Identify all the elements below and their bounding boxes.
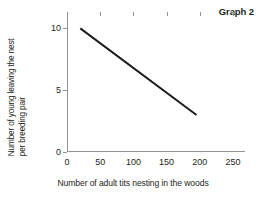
x-axis-tick-label: 0 <box>64 157 69 167</box>
chart-figure: Graph 2 Number of young leaving the nest… <box>0 0 266 203</box>
y-axis-tick-label: 5 <box>56 85 61 95</box>
y-axis-tick-label: 0 <box>56 147 61 157</box>
x-axis-tick-label: 100 <box>126 157 141 167</box>
data-line <box>80 28 196 115</box>
y-axis-title: Number of young leaving the nest per bre… <box>0 0 50 160</box>
y-axis-title-line-2: per breeding pair <box>19 97 27 156</box>
x-axis-title: Number of adult tits nesting in the wood… <box>0 178 266 188</box>
plot-area: 0510 050100150200250 <box>67 16 245 152</box>
y-axis-title-line-1: Number of young leaving the nest <box>8 38 16 156</box>
data-series-layer <box>67 16 245 152</box>
x-axis-tick-label: 150 <box>159 157 174 167</box>
x-axis-tick-label: 50 <box>95 157 105 167</box>
x-axis-tick-label: 200 <box>192 157 207 167</box>
x-axis-tick-label: 250 <box>226 157 241 167</box>
y-axis-tick <box>63 152 67 153</box>
y-axis-tick-label: 10 <box>51 23 61 33</box>
